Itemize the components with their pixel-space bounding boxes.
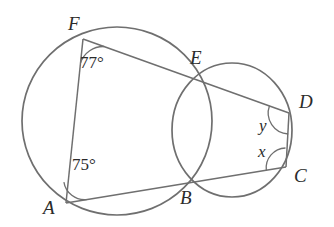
angle-arc-d: [268, 106, 288, 134]
geometry-figure-svg: [0, 0, 334, 227]
angle-label-y: y: [259, 117, 267, 134]
segment-ac: [66, 167, 286, 203]
vertex-label-b: B: [180, 188, 192, 207]
angle-label-f: 77°: [80, 54, 104, 71]
right-circle: [172, 63, 292, 197]
segment-fd: [83, 39, 289, 113]
vertex-label-c: C: [294, 166, 307, 185]
segment-dc: [286, 113, 289, 167]
vertex-label-f: F: [68, 14, 80, 33]
vertex-label-d: D: [299, 92, 313, 111]
vertex-label-a: A: [43, 198, 55, 217]
angle-label-a: 75°: [72, 156, 96, 173]
angle-label-x: x: [258, 143, 266, 160]
vertex-label-e: E: [190, 48, 202, 67]
geometry-diagram: F E D C B A 77° 75° y x: [0, 0, 334, 227]
